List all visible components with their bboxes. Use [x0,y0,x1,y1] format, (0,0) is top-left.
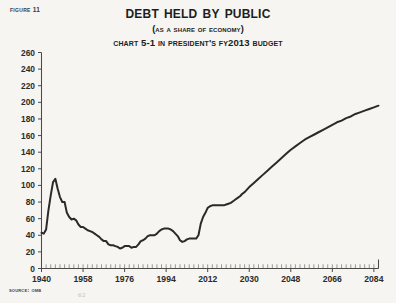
page-number-artifact: 62 [78,291,86,299]
y-tick-label: 180 [21,114,35,124]
line-chart-svg: 020406080100120140160180200220240260 194… [0,0,396,303]
y-tick-label: 240 [21,64,35,74]
y-tick-label: 140 [21,147,35,157]
y-tick-label: 220 [21,81,35,91]
y-tick-label: 20 [26,247,36,257]
x-tick-label: 2084 [364,274,383,284]
x-tick-label: 1958 [73,274,92,284]
x-axis-ticks: 194019581976199420122030204820662084 [32,269,384,285]
figure-page: Figure 11 Debt Held by Public (As a Shar… [0,0,396,303]
x-tick-label: 2012 [198,274,217,284]
plot-area: 020406080100120140160180200220240260 194… [0,0,396,303]
debt-series-line [42,106,379,249]
x-tick-label: 2048 [281,274,300,284]
source-note: Source: OMB [9,286,41,293]
x-tick-label: 2066 [323,274,342,284]
y-axis-ticks: 020406080100120140160180200220240260 [21,48,41,274]
x-axis-minor-ticks [42,264,379,268]
y-tick-label: 80 [26,197,36,207]
y-tick-label: 200 [21,97,35,107]
x-tick-label: 1940 [32,274,51,284]
y-tick-label: 160 [21,131,35,141]
y-tick-label: 60 [26,214,36,224]
x-tick-label: 2030 [240,274,259,284]
x-tick-label: 1994 [157,274,176,284]
y-tick-label: 100 [21,180,35,190]
y-tick-label: 0 [30,264,35,274]
y-tick-label: 40 [26,230,36,240]
y-tick-label: 260 [21,48,35,58]
y-tick-label: 120 [21,164,35,174]
axis-frame [42,53,379,269]
x-tick-label: 1976 [115,274,134,284]
